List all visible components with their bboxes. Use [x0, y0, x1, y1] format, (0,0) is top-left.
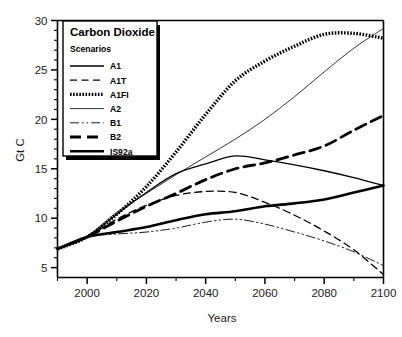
- figure-caption: [0, 327, 402, 337]
- legend-title: Carbon Dioxide: [70, 26, 155, 38]
- x-tick-label: 2000: [74, 287, 100, 299]
- y-tick-label: 5: [41, 262, 47, 274]
- legend-label-a2: A2: [110, 104, 121, 114]
- carbon-dioxide-emissions-chart: 200020202040206020802100 51015202530 Yea…: [0, 0, 402, 337]
- x-axis-title: Years: [208, 312, 237, 324]
- y-axis-title: Gt C: [14, 138, 26, 162]
- legend-label-a1t: A1T: [110, 76, 127, 86]
- x-tick-label: 2060: [252, 287, 278, 299]
- y-tick-label: 10: [35, 212, 48, 224]
- legend-label-b1: B1: [110, 118, 121, 128]
- legend-label-b2: B2: [110, 132, 121, 142]
- legend-label-a1fi: A1FI: [110, 90, 129, 100]
- x-tick-label: 2020: [134, 287, 160, 299]
- y-tick-label: 15: [35, 163, 48, 175]
- legend: Carbon Dioxide Scenarios A1A1TA1FIA2B1B2…: [63, 21, 160, 160]
- legend-label-is92a: IS92a: [110, 147, 133, 157]
- figure-container: 200020202040206020802100 51015202530 Yea…: [0, 0, 402, 337]
- legend-label-a1: A1: [110, 61, 121, 71]
- x-tick-label: 2080: [311, 287, 337, 299]
- x-tick-label: 2100: [371, 287, 397, 299]
- y-tick-label: 25: [35, 64, 48, 76]
- x-tick-label: 2040: [193, 287, 219, 299]
- y-tick-label: 30: [35, 15, 48, 27]
- legend-subtitle: Scenarios: [70, 44, 111, 54]
- y-tick-label: 20: [35, 114, 48, 126]
